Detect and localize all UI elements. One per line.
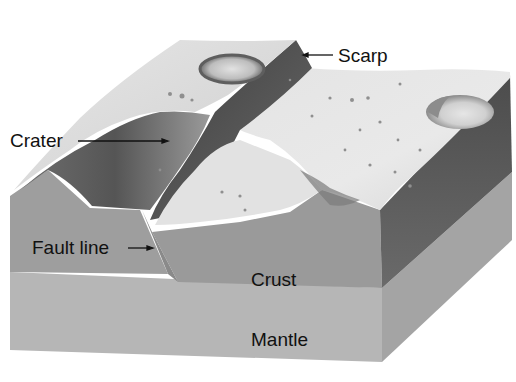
mantle-label: Mantle	[251, 330, 308, 349]
scarp-label: Scarp	[338, 46, 388, 65]
crust-label: Crust	[251, 270, 296, 289]
fault-line-label: Fault line	[32, 238, 109, 257]
fault-scarp-diagram	[0, 0, 516, 382]
crater-label: Crater	[10, 131, 63, 150]
